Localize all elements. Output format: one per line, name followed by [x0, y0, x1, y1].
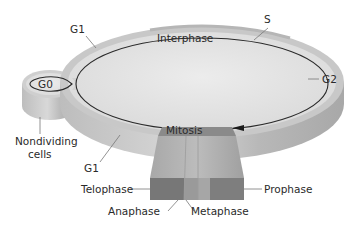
- label-g1-bottom: G1: [84, 162, 99, 174]
- label-s: S: [264, 13, 271, 25]
- label-g0: G0: [38, 78, 53, 90]
- label-interphase: Interphase: [157, 32, 213, 44]
- label-nondividing-line1: Nondividing: [15, 135, 78, 147]
- mitosis-column: [150, 136, 244, 200]
- label-g1-top: G1: [70, 23, 85, 35]
- label-g2: G2: [322, 73, 337, 85]
- label-telophase: Telophase: [80, 183, 133, 195]
- label-mitosis: Mitosis: [166, 124, 202, 136]
- label-prophase: Prophase: [264, 183, 312, 195]
- label-metaphase: Metaphase: [191, 205, 249, 217]
- label-nondividing-line2: cells: [28, 148, 52, 160]
- label-anaphase: Anaphase: [108, 205, 160, 217]
- cell-cycle-diagram: G1 Interphase S G2 G0 Nondividing cells …: [0, 0, 352, 227]
